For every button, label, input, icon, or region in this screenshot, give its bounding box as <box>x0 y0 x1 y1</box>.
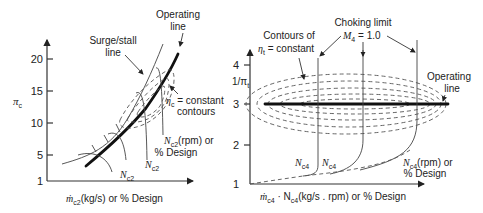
speed-line-3 <box>136 93 147 160</box>
speed-label-low: Nc2 <box>119 169 134 182</box>
speed-line-1 <box>78 154 112 172</box>
contours-pointer <box>299 58 304 79</box>
surge-line-label-2: line <box>105 47 121 58</box>
speed-label-design: % Design <box>155 147 198 158</box>
choking-pointer-right <box>387 36 415 52</box>
tick-label-2: 2 <box>233 139 239 151</box>
tick-label-1: 1 <box>37 175 43 187</box>
x-axis-label: ṁc2(kg/s) or % Design <box>66 193 163 206</box>
choking-label-1: Choking limit <box>334 17 391 28</box>
speed-label-1: Nc4 <box>294 157 309 170</box>
operating-line-pointer <box>443 95 445 101</box>
contours-label-2: ηt = constant <box>258 43 314 56</box>
y-ticks <box>47 59 53 155</box>
tick-label-4: 4 <box>233 59 239 71</box>
tick-label-15: 15 <box>31 85 43 97</box>
compressor-turbine-maps: 20 15 10 5 1 πc ṁc2(kg/s) or % Design <box>0 0 483 213</box>
speed-label-design: % Design <box>404 168 447 179</box>
speed-line-4 <box>156 68 163 135</box>
choking-label-2: M4 = 1.0 <box>342 30 381 43</box>
tick-label-20: 20 <box>31 53 43 65</box>
operating-line-label-1: Operating <box>427 71 471 82</box>
x-axis-label: ṁc4 · Nc4(kg/s . rpm) or % Design <box>260 191 406 204</box>
tick-label-1: 1 <box>233 178 239 190</box>
surge-line-pointer <box>125 55 143 74</box>
surge-line-label-1: Surge/stall <box>89 35 136 46</box>
speed-line-2 <box>330 50 363 174</box>
speed-label-2: Nc4 <box>321 157 336 170</box>
tick-label-10: 10 <box>31 117 43 129</box>
turbine-map: 4 3 2 1 1/πt ṁc4 · Nc4(kg/s . rpm) or % … <box>232 17 471 204</box>
tick-label-5: 5 <box>37 149 43 161</box>
operating-line-label-2: line <box>170 21 186 32</box>
tick-label-3: 3 <box>233 98 239 110</box>
y-axis-label: 1/πt <box>232 76 249 89</box>
choking-pointer-left <box>320 36 341 56</box>
operating-line-pointer <box>180 33 183 46</box>
y-axis-label: πc <box>13 95 23 109</box>
compressor-map: 20 15 10 5 1 πc ṁc2(kg/s) or % Design <box>13 9 224 206</box>
contours-label-1: Contours of <box>263 30 315 41</box>
operating-line-label-1: Operating <box>156 9 200 20</box>
efficiency-pointer <box>170 86 178 94</box>
speed-label-mid: Nc2 <box>144 159 159 172</box>
operating-line-label-2: line <box>444 83 460 94</box>
efficiency-contours-label-2: contours <box>177 106 215 117</box>
